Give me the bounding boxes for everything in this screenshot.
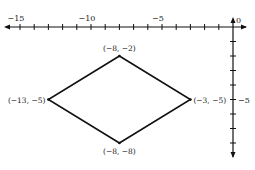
rhombus-shape <box>47 55 192 145</box>
plot-area: −15−10−50 −5 (−8, −2)(−3, −5)(−8, −8)(−1… <box>0 0 255 170</box>
y-tick-label: −5 <box>238 96 250 105</box>
x-tick-label: 0 <box>236 16 241 25</box>
axes: −15−10−50 −5 <box>4 14 250 158</box>
vertex-labels: (−8, −2)(−3, −5)(−8, −8)(−13, −5) <box>8 44 226 156</box>
x-axis-left-arrow-icon <box>4 25 10 30</box>
vertex-label: (−13, −5) <box>8 96 46 105</box>
x-tick-labels: −15−10−50 <box>8 14 242 25</box>
y-axis-down-arrow-icon <box>231 152 236 158</box>
y-tick-labels: −5 <box>238 96 250 105</box>
vertex-label: (−8, −8) <box>103 147 136 156</box>
vertex-point <box>118 142 121 145</box>
vertex-point <box>47 98 50 101</box>
x-tick-label: −15 <box>8 14 25 23</box>
x-tick-label: −10 <box>79 14 96 23</box>
vertex-label: (−3, −5) <box>193 96 226 105</box>
y-axis-up-arrow-icon <box>231 17 236 23</box>
rhombus-outline <box>48 56 190 143</box>
coordinate-plane-figure: −15−10−50 −5 (−8, −2)(−3, −5)(−8, −8)(−1… <box>0 0 255 170</box>
x-axis-right-arrow-icon <box>241 25 247 30</box>
x-tick-label: −5 <box>152 14 164 23</box>
vertex-label: (−8, −2) <box>103 44 136 53</box>
vertex-point <box>118 55 121 58</box>
vertex-point <box>189 98 192 101</box>
